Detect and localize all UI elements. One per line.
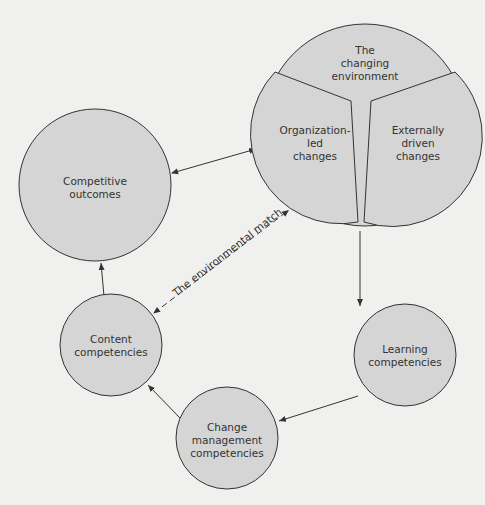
edge-change-content	[148, 385, 180, 418]
edge-content-competitive	[101, 263, 104, 296]
label-environment: The changing environment	[315, 44, 415, 83]
edge-competitive-environment	[172, 149, 256, 173]
label-external: Externally driven changes	[378, 124, 458, 163]
label-learning: Learning competencies	[355, 343, 455, 369]
edge-learning-change	[279, 396, 358, 421]
label-change-mgmt: Change management competencies	[177, 421, 277, 460]
label-org-led: Organization- led changes	[275, 124, 355, 163]
label-competitive: Competitive outcomes	[45, 175, 145, 201]
label-content: Content competencies	[61, 333, 161, 359]
